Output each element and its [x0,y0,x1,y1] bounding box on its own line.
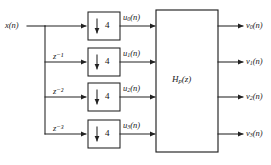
downsampler-box-1 [88,48,120,76]
output-label-v0: v0(n) [246,21,263,30]
downsampler-factor-1: 4 [105,57,110,66]
downsampler-factor-3: 4 [105,129,110,138]
delay-label-2: z⁻² [53,87,63,96]
block-diagram-figure: x(n) z⁻¹ z⁻² z⁻³ 4 4 4 4 u0(n) u1(n) u2(… [0,0,271,165]
input-label-text: x(n) [5,20,19,30]
signal-label-u1-arg: (n) [130,48,140,58]
signal-label-u3-arg: (n) [130,120,140,130]
delay-label-3: z⁻³ [53,124,63,133]
signal-label-u0-arg: (n) [130,12,140,22]
polyphase-block-label: Hp(z) [172,75,191,85]
delay-label-1: z⁻¹ [53,52,63,61]
output-label-v1: v1(n) [246,57,263,66]
delay-label-1-text: z⁻¹ [53,51,63,61]
input-label: x(n) [5,21,19,30]
downsampler-factor-0-text: 4 [105,20,110,30]
signal-label-u3: u3(n) [123,121,140,130]
delay-label-3-text: z⁻³ [53,123,63,133]
signal-label-u2: u2(n) [123,84,140,93]
signal-label-u1: u1(n) [123,49,140,58]
downsampler-factor-2: 4 [105,92,110,101]
output-label-v3: v3(n) [246,129,263,138]
downsampler-box-2 [88,83,120,111]
downsampler-box-0 [88,12,120,40]
polyphase-block-label-arg: (z) [182,74,192,84]
downsampler-box-3 [88,120,120,148]
downsampler-factor-0: 4 [105,21,110,30]
downsampler-factor-1-text: 4 [105,56,110,66]
delay-label-2-text: z⁻² [53,86,63,96]
output-label-v2: v2(n) [246,92,263,101]
output-label-v1-arg: (n) [253,56,263,66]
downsampler-factor-2-text: 4 [105,91,110,101]
signal-label-u0: u0(n) [123,13,140,22]
output-label-v3-arg: (n) [253,128,263,138]
output-label-v2-arg: (n) [253,91,263,101]
output-label-v0-arg: (n) [253,20,263,30]
downsampler-factor-3-text: 4 [105,128,110,138]
signal-label-u2-arg: (n) [130,83,140,93]
